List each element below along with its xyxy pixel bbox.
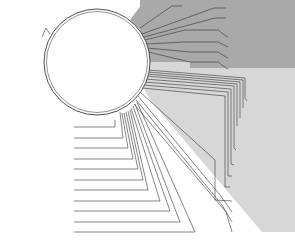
greatest-age-note [42, 28, 50, 37]
life-expectancy-dial-diagram [0, 0, 295, 248]
age-dial [44, 9, 150, 115]
